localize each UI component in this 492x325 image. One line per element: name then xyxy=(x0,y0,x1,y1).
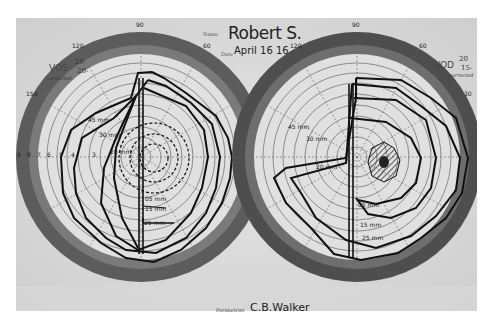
left-eye-label: VOS xyxy=(49,63,68,73)
left-isopter-label: 05 mm xyxy=(145,195,166,202)
left-isopter-label: 30 mm xyxy=(99,131,120,138)
left-isopter-label: 25 mm xyxy=(144,219,165,226)
left-tick: 8 xyxy=(27,151,31,158)
right-eye-acuity-numerator: 20 xyxy=(459,55,468,63)
right-meridian-60: 60 xyxy=(419,42,427,49)
left-eye-acuity-denominator: 20- xyxy=(77,67,88,75)
patient-name: Robert S. xyxy=(228,23,301,43)
right-isopter-label: 15 mm xyxy=(360,221,381,228)
left-tick: 7 xyxy=(37,151,41,158)
right-meridian-30: 30 xyxy=(464,90,472,97)
left-meridian-90: 90 xyxy=(136,21,144,28)
right-eye-label: VOD xyxy=(434,60,454,70)
right-isopter-label: 20 mm xyxy=(316,163,337,170)
perimetrist-label: Perimetrist xyxy=(216,307,244,313)
right-meridian-120: 120 xyxy=(290,42,301,49)
left-eye-acuity-numerator: 20 xyxy=(75,58,84,66)
right-isopter-label: 25 mm xyxy=(362,234,383,241)
left-tick: 3 xyxy=(92,151,96,158)
right-meridian-90: 90 xyxy=(352,21,360,28)
left-isopter-label: 15 mm xyxy=(145,205,166,212)
right-isopter-label: 30 mm xyxy=(306,135,327,142)
left-isopter-label: 20 mm xyxy=(110,148,131,155)
date-label: Date xyxy=(221,51,233,57)
left-meridian-120: 120 xyxy=(72,42,83,49)
left-tick: 4 xyxy=(71,151,75,158)
left-tick: 9 xyxy=(17,151,21,158)
right-eye-correction-note: corrected xyxy=(449,72,474,78)
right-isopter-label: 05 mm xyxy=(358,201,379,208)
perimetrist-name: C.B.Walker xyxy=(250,301,309,314)
left-tick: 6 xyxy=(47,151,51,158)
name-label: Name xyxy=(203,31,218,37)
left-eye-correction-note: corrected xyxy=(47,75,72,81)
right-eye-acuity-denominator: 15- xyxy=(461,64,472,72)
left-meridian-60: 60 xyxy=(203,42,211,49)
left-isopter-label: 45 mm xyxy=(88,116,109,123)
perimetry-chart-sheet: Name Robert S. Date April 16 16 VOS 20 2… xyxy=(16,18,477,311)
left-meridian-150: 150 xyxy=(26,90,37,97)
visual-field-diagram xyxy=(16,18,477,311)
test-date: April 16 16 xyxy=(234,45,289,56)
left-tick: 5 xyxy=(59,151,63,158)
right-isopter-label: 45 mm xyxy=(288,123,309,130)
